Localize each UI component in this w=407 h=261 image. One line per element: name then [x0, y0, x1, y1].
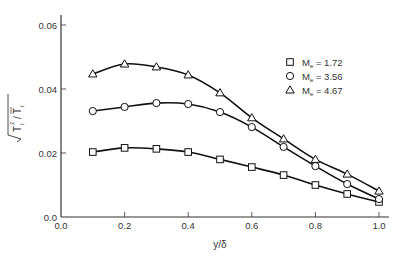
svg-text:2: 2	[9, 121, 15, 125]
triangle-marker-icon	[279, 135, 287, 142]
square-marker-icon	[217, 156, 224, 163]
legend-item: Me = 4.67	[286, 85, 343, 97]
series-line	[93, 64, 379, 191]
square-marker-icon	[121, 145, 128, 152]
legend-label: Me = 3.56	[302, 71, 343, 83]
circle-marker-icon	[153, 99, 160, 106]
circle-marker-icon	[375, 195, 382, 202]
chart: 0.00.20.40.60.81.00.00.020.040.06 Me = 1…	[0, 0, 407, 261]
svg-text:T: T	[12, 126, 23, 132]
legend-item: Me = 3.56	[286, 71, 342, 83]
x-tick-label: 0.4	[182, 220, 195, 231]
circle-marker-icon	[344, 180, 351, 187]
circle-marker-icon	[248, 123, 255, 130]
square-marker-icon	[280, 172, 287, 179]
x-tick-label: 0.8	[309, 220, 322, 231]
svg-text:T: T	[12, 108, 23, 114]
square-marker-icon	[153, 146, 160, 153]
y-tick-label: 0.04	[39, 84, 58, 95]
triangle-marker-icon	[311, 155, 319, 162]
circle-marker-icon	[121, 103, 128, 110]
svg-text:t: t	[19, 105, 25, 107]
series-group	[89, 60, 384, 205]
triangle-legend-icon	[286, 86, 294, 93]
y-tick-label: 0.02	[39, 148, 58, 159]
square-marker-icon	[344, 191, 351, 198]
svg-text:t: t	[19, 123, 25, 125]
y-axis-label: T t 2 / T t	[8, 94, 25, 142]
square-marker-icon	[249, 164, 256, 171]
legend: Me = 1.72Me = 3.56Me = 4.67	[286, 57, 343, 97]
series-line	[93, 148, 379, 202]
triangle-marker-icon	[216, 89, 224, 96]
circle-legend-icon	[286, 72, 293, 79]
svg-text:/: /	[12, 116, 23, 119]
square-marker-icon	[185, 149, 192, 156]
triangle-marker-icon	[375, 187, 383, 194]
circle-marker-icon	[216, 108, 223, 115]
square-legend-icon	[287, 59, 294, 66]
circle-marker-icon	[89, 107, 96, 114]
circle-marker-icon	[312, 163, 319, 170]
x-tick-label: 0.2	[118, 220, 131, 231]
legend-label: Me = 4.67	[302, 85, 343, 97]
y-tick-label: 0.0	[44, 212, 57, 223]
series-circle	[89, 99, 382, 202]
series-square	[90, 145, 383, 206]
y-tick-label: 0.06	[39, 20, 58, 31]
axes: 0.00.20.40.60.81.00.00.020.040.06	[39, 15, 390, 231]
legend-item: Me = 1.72	[287, 57, 343, 69]
x-axis-label: y/δ	[213, 239, 227, 250]
x-tick-label: 0.6	[245, 220, 258, 231]
circle-marker-icon	[185, 100, 192, 107]
square-marker-icon	[312, 182, 319, 189]
series-line	[93, 103, 379, 199]
x-tick-label: 1.0	[372, 220, 385, 231]
legend-label: Me = 1.72	[302, 57, 343, 69]
square-marker-icon	[90, 149, 97, 156]
circle-marker-icon	[280, 143, 287, 150]
